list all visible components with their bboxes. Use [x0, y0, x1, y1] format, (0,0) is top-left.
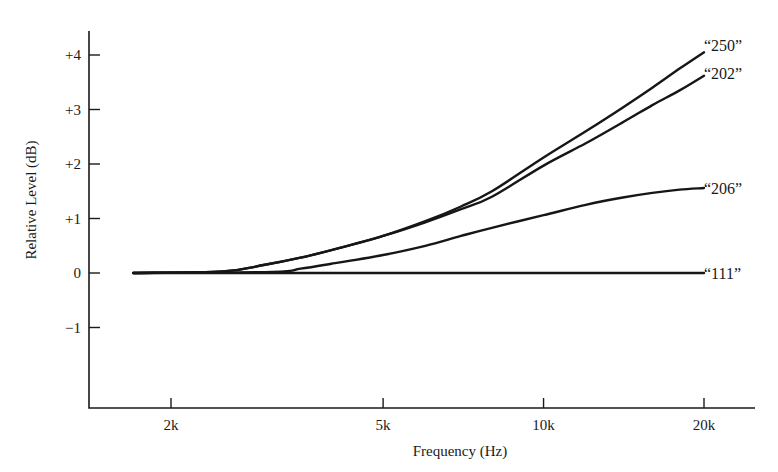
x-axis-title: Frequency (Hz) — [413, 443, 508, 460]
y-axis-title: Relative Level (dB) — [23, 140, 40, 259]
x-tick-label: 20k — [693, 417, 716, 433]
y-tick-label: −1 — [65, 320, 81, 336]
series-label: “111” — [704, 265, 741, 282]
y-tick-label: +4 — [65, 47, 81, 63]
frequency-response-chart: “250”“202”“206”“111” +4+3+2+10−1 2k5k10k… — [0, 0, 778, 472]
x-axis-ticks: 2k5k10k20k — [164, 398, 716, 433]
series-curve — [133, 188, 704, 273]
y-axis-ticks: +4+3+2+10−1 — [65, 47, 100, 336]
series-label: “250” — [704, 37, 742, 54]
series-label: “202” — [704, 65, 742, 82]
axes — [89, 31, 755, 408]
x-tick-label: 2k — [164, 417, 180, 433]
series-curves — [133, 52, 704, 273]
y-tick-label: 0 — [74, 265, 82, 281]
x-tick-label: 10k — [532, 417, 555, 433]
x-tick-label: 5k — [376, 417, 392, 433]
y-tick-label: +3 — [65, 102, 81, 118]
y-tick-label: +2 — [65, 156, 81, 172]
y-tick-label: +1 — [65, 211, 81, 227]
series-label: “206” — [704, 180, 742, 197]
series-curve — [133, 76, 704, 273]
series-curve — [133, 52, 704, 273]
series-labels: “250”“202”“206”“111” — [704, 37, 742, 282]
